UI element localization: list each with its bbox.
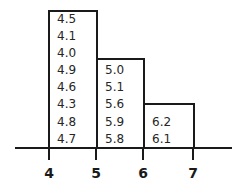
bar-value-cell: 5.6 [98, 96, 143, 113]
bar-value-cell: 6.1 [145, 131, 193, 148]
x-axis-tick-6 [142, 149, 144, 160]
bar-value-cell: 5.8 [98, 131, 143, 148]
histogram-bar-6-7: 6.2 6.1 [143, 103, 195, 148]
bar-value-cell: 4.9 [50, 62, 96, 79]
bar-value-cell: 4.0 [50, 45, 96, 62]
bar-value-cell: 5.1 [98, 79, 143, 96]
bar-value-cell: 4.3 [50, 96, 96, 113]
histogram-chart: 4.5 4.1 4.0 4.9 4.6 4.3 4.8 4.7 5.0 5.1 … [0, 0, 241, 194]
x-axis-tick-4 [48, 149, 50, 160]
histogram-bar-4-5: 4.5 4.1 4.0 4.9 4.6 4.3 4.8 4.7 [48, 10, 98, 148]
x-axis-tick-7 [192, 149, 194, 160]
bar-value-cell: 4.6 [50, 79, 96, 96]
bar-value-cell: 4.5 [50, 11, 96, 28]
x-axis-label-7: 7 [181, 165, 205, 181]
histogram-bar-5-6: 5.0 5.1 5.6 5.9 5.8 [96, 58, 145, 148]
bar-value-cell: 4.7 [50, 131, 96, 148]
x-axis-label-4: 4 [37, 165, 61, 181]
bar-value-cell: 4.1 [50, 28, 96, 45]
bar-value-cell: 5.9 [98, 114, 143, 131]
x-axis-label-6: 6 [131, 165, 155, 181]
bar-value-cell: 5.0 [98, 62, 143, 79]
bar-value-cell: 4.8 [50, 114, 96, 131]
bar-value-cell: 6.2 [145, 114, 193, 131]
x-axis-tick-5 [95, 149, 97, 160]
x-axis-label-5: 5 [84, 165, 108, 181]
